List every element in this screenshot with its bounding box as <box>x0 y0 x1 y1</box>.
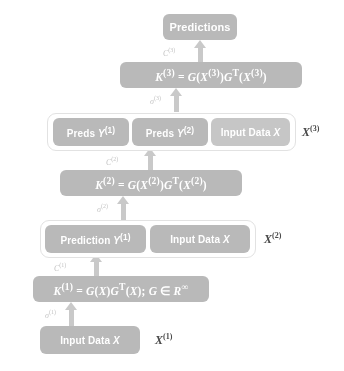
node-preds-y1[interactable]: Preds Y(1) <box>53 118 129 146</box>
node-kernel-layer3[interactable]: K(3) = G(X(3))GT(X(3)) <box>120 62 302 88</box>
arrow-kernel2-to-layer3 <box>146 148 155 172</box>
arrow-layer3-to-kernel3 <box>172 88 181 112</box>
arrow-head <box>194 40 206 48</box>
arrow-shaft <box>69 310 74 326</box>
node-input-data-layer3-label: Input Data X <box>221 127 281 138</box>
node-input-data-layer2-label: Input Data X <box>170 234 230 245</box>
node-prediction-y1[interactable]: Prediction Y(1) <box>45 225 146 253</box>
node-prediction-y1-label: Prediction Y(1) <box>60 232 130 246</box>
node-input-data-layer2[interactable]: Input Data X <box>150 225 250 253</box>
annotation-c3: C(3) <box>163 47 175 58</box>
arrow-head <box>65 302 77 310</box>
annotation-c1: C(1) <box>54 262 66 273</box>
node-kernel-layer2-label: K(2) = G(X(2))GT(X(2)) <box>95 175 207 191</box>
node-preds-y2-label: Preds Y(2) <box>146 125 194 139</box>
node-preds-y1-label: Preds Y(1) <box>67 125 115 139</box>
arrow-head <box>117 196 129 204</box>
node-predictions[interactable]: Predictions <box>163 14 237 40</box>
node-kernel-layer1[interactable]: K(1) = G(X)GT(X); G ∈ R∞ <box>33 276 209 302</box>
annotation-sigma2: σ(2) <box>97 203 108 214</box>
node-input-data-layer1[interactable]: Input Data X <box>40 326 140 354</box>
arrow-shaft <box>121 204 126 220</box>
node-kernel-layer2[interactable]: K(2) = G(X(2))GT(X(2)) <box>60 170 242 196</box>
architecture-diagram: Predictions C(3) K(3) = G(X(3))GT(X(3)) … <box>0 0 344 371</box>
annotation-c2: C(2) <box>106 156 118 167</box>
node-input-data-layer3[interactable]: Input Data X <box>211 118 290 146</box>
layer-label-x3: X(3) <box>302 124 319 140</box>
layer-label-x1: X(1) <box>155 332 172 348</box>
node-predictions-label: Predictions <box>169 21 230 33</box>
node-input-data-layer1-label: Input Data X <box>60 335 120 346</box>
arrow-layer1-to-kernel1 <box>67 302 76 326</box>
node-preds-y2[interactable]: Preds Y(2) <box>132 118 208 146</box>
arrow-layer2-to-kernel2 <box>119 196 128 220</box>
arrow-shaft <box>198 48 203 62</box>
node-kernel-layer3-label: K(3) = G(X(3))GT(X(3)) <box>155 67 267 83</box>
node-kernel-layer1-label: K(1) = G(X)GT(X); G ∈ R∞ <box>54 281 189 298</box>
arrow-kernel3-to-predictions <box>196 40 205 62</box>
arrow-shaft <box>174 96 179 112</box>
arrow-head <box>170 88 182 96</box>
annotation-sigma3: σ(3) <box>150 95 161 106</box>
layer-label-x2: X(2) <box>264 231 281 247</box>
annotation-sigma1: σ(1) <box>45 309 56 320</box>
